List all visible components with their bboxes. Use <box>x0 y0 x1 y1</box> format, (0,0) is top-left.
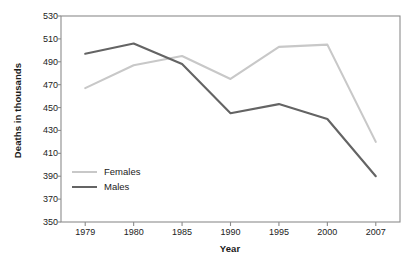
legend-label: Males <box>104 181 129 192</box>
x-axis-tick-label: 1979 <box>63 227 107 237</box>
x-axis-tick-label: 1995 <box>257 227 301 237</box>
legend-item: Females <box>72 164 140 179</box>
legend-label: Females <box>104 166 140 177</box>
legend-swatch-females <box>72 171 97 173</box>
x-axis-tick-label: 1980 <box>112 227 156 237</box>
x-axis-tick-label: 1990 <box>209 227 253 237</box>
line-chart-figure: Deaths in thousands 35037039041043045047… <box>0 0 416 267</box>
x-axis-title: Year <box>60 243 400 254</box>
legend-item: Males <box>72 179 140 194</box>
series-line-males <box>85 43 376 176</box>
x-axis-tick-label: 1985 <box>160 227 204 237</box>
x-axis-tick-label: 2000 <box>305 227 349 237</box>
series-line-females <box>85 45 376 142</box>
x-axis-tick-label: 2007 <box>354 227 398 237</box>
legend-swatch-males <box>72 186 97 188</box>
chart-legend: FemalesMales <box>72 164 140 194</box>
